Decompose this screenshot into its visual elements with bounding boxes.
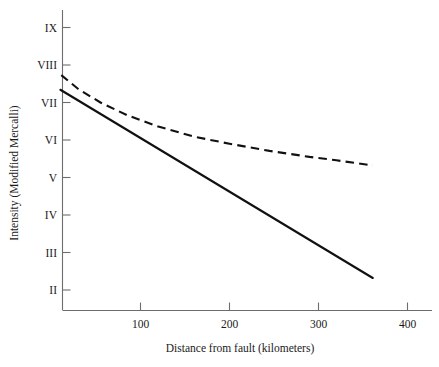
intensity-attenuation-chart: IX VIII VII VI V IV III II 100 200 300 4… (0, 0, 439, 367)
series-firm-ground-solid (60, 90, 372, 278)
x-tick-label-400: 400 (399, 318, 417, 330)
y-axis-title: Intensity (Modified Mercalli) (8, 105, 21, 241)
x-tick-label-100: 100 (132, 318, 150, 330)
y-tick-label-iv: IV (45, 209, 58, 221)
y-tick-label-vii: VII (41, 97, 57, 109)
x-axis-ticks (141, 303, 408, 311)
y-tick-label-iii: III (46, 247, 58, 259)
y-axis-ticks (63, 28, 71, 291)
y-tick-label-ii: II (49, 284, 57, 296)
y-tick-label-vi: VI (45, 134, 57, 146)
x-tick-label-300: 300 (310, 318, 328, 330)
x-axis-title: Distance from fault (kilometers) (166, 342, 315, 355)
chart-figure: IX VIII VII VI V IV III II 100 200 300 4… (0, 0, 439, 367)
y-tick-label-v: V (49, 172, 58, 184)
x-tick-label-200: 200 (221, 318, 239, 330)
y-tick-label-viii: VIII (37, 59, 57, 71)
series-soft-ground-dashed (61, 75, 373, 165)
y-tick-label-ix: IX (45, 22, 58, 34)
